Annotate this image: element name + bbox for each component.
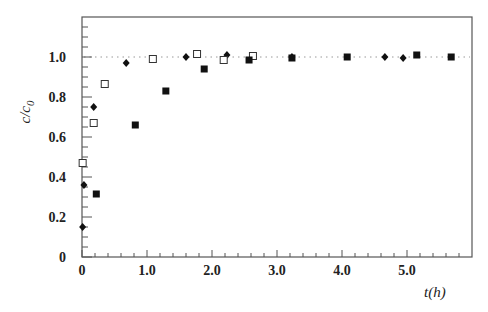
diamond-marker xyxy=(79,223,86,231)
x-axis-title: t(h) xyxy=(424,284,446,301)
diamond-marker xyxy=(123,59,130,67)
x-axis-ticks xyxy=(82,250,459,257)
open-square-marker xyxy=(90,120,97,127)
open-square-marker xyxy=(194,51,201,58)
filled-square-marker xyxy=(448,54,455,61)
open-square-marker xyxy=(101,81,108,88)
svg-text:c/c0: c/c0 xyxy=(17,100,36,123)
x-tick-label: 1.0 xyxy=(138,263,156,278)
x-tick-label: 0 xyxy=(79,263,86,278)
diamond-marker xyxy=(183,53,190,61)
y-axis-tick-labels: 00.20.40.60.81.0 xyxy=(49,50,67,265)
y-axis-ticks xyxy=(82,27,92,257)
y-tick-label: 0.8 xyxy=(49,90,67,105)
filled-square-marker xyxy=(288,55,295,62)
open-square-marker xyxy=(220,57,227,64)
y-tick-label: 0.4 xyxy=(49,170,67,185)
filled-square-marker xyxy=(201,66,208,73)
filled-square-marker xyxy=(246,57,253,64)
y-axis-title-subscript: 0 xyxy=(24,100,36,106)
filled-square-marker xyxy=(344,54,351,61)
x-axis-tick-labels: 01.02.03.04.05.0 xyxy=(79,263,416,278)
series-square-filled xyxy=(93,52,455,198)
y-axis-title: c/c0 xyxy=(17,100,36,123)
filled-square-marker xyxy=(162,88,169,95)
x-tick-label: 2.0 xyxy=(203,263,221,278)
x-tick-label: 4.0 xyxy=(333,263,351,278)
filled-square-marker xyxy=(413,52,420,59)
diamond-marker xyxy=(381,53,388,61)
series-square-open xyxy=(79,51,256,167)
filled-square-marker xyxy=(132,122,139,129)
y-tick-label: 0.6 xyxy=(49,130,67,145)
y-tick-label: 0 xyxy=(59,250,66,265)
series-diamond-filled xyxy=(79,51,406,231)
diamond-marker xyxy=(400,54,407,62)
scatter-chart: 01.02.03.04.05.0 00.20.40.60.81.0 t(h) c… xyxy=(0,0,488,312)
filled-square-marker xyxy=(93,191,100,198)
diamond-marker xyxy=(90,103,97,111)
y-axis-title-main: c/c xyxy=(17,106,33,124)
open-square-marker xyxy=(149,56,156,63)
y-tick-label: 0.2 xyxy=(49,210,67,225)
x-tick-label: 5.0 xyxy=(398,263,416,278)
data-markers xyxy=(79,51,455,232)
x-tick-label: 3.0 xyxy=(268,263,286,278)
open-square-marker xyxy=(79,160,86,167)
y-tick-label: 1.0 xyxy=(49,50,67,65)
